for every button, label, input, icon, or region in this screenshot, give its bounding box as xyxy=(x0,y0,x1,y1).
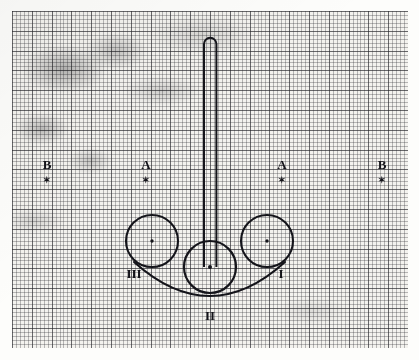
marker-b-left-icon: ✶ xyxy=(43,176,51,185)
ink-drawing-layer xyxy=(0,0,419,360)
marker-b-right-icon: ✶ xyxy=(378,176,386,185)
label-roman-iii: III xyxy=(126,267,141,280)
marker-a-right-icon: ✶ xyxy=(278,176,286,185)
vertical-loop-stem xyxy=(204,38,216,267)
label-b-right: B xyxy=(378,158,387,171)
label-a-right: A xyxy=(277,158,286,171)
marker-a-left-icon: ✶ xyxy=(142,176,150,185)
circle-i-center-dot xyxy=(265,239,268,242)
label-roman-ii: II xyxy=(205,309,215,322)
label-b-left: B xyxy=(43,158,52,171)
scanned-figure-page: B ✶ A ✶ A ✶ B ✶ III I II xyxy=(0,0,419,360)
label-roman-i: I xyxy=(278,267,283,280)
circle-iii-center-dot xyxy=(150,239,153,242)
label-a-left: A xyxy=(141,158,150,171)
circle-ii-center-dot xyxy=(208,265,212,269)
